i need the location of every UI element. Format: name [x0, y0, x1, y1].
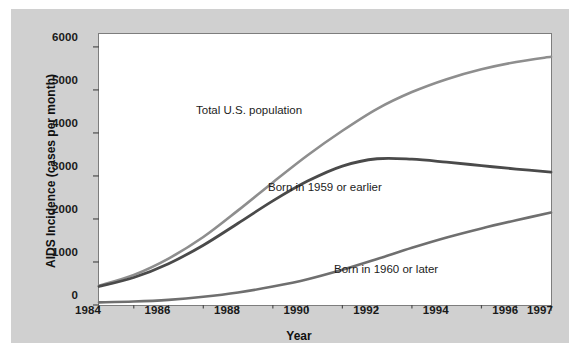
x-tick-label: 1986: [135, 304, 181, 316]
series-label-1: Total U.S. population: [196, 104, 302, 116]
axis-ticks: [93, 47, 551, 311]
series-label-2: Born in 1959 or earlier: [268, 181, 382, 193]
y-tick-label: 5000: [26, 74, 78, 86]
x-tick-label: 1988: [204, 304, 250, 316]
y-tick-label: 6000: [26, 31, 78, 43]
y-tick-label: 2000: [26, 203, 78, 215]
y-tick-label: 1000: [26, 246, 78, 258]
series-line-2: [99, 158, 551, 286]
data-series: [99, 57, 551, 303]
series-label-3: Born in 1960 or later: [334, 263, 438, 275]
x-tick-label: 1984: [65, 304, 111, 316]
x-tick-label: 1994: [413, 304, 459, 316]
x-tick-label: 1992: [343, 304, 389, 316]
chart-panel: AIDS Incidence (cases per month) Year 01…: [11, 9, 569, 343]
y-tick-label: 0: [26, 289, 78, 301]
series-line-3: [99, 213, 551, 303]
y-tick-label: 4000: [26, 117, 78, 129]
x-tick-label: 1990: [274, 304, 320, 316]
y-tick-label: 3000: [26, 160, 78, 172]
figure-container: AIDS Incidence (cases per month) Year 01…: [0, 0, 580, 353]
x-tick-label: 1997: [517, 304, 563, 316]
series-line-1: [99, 57, 551, 286]
